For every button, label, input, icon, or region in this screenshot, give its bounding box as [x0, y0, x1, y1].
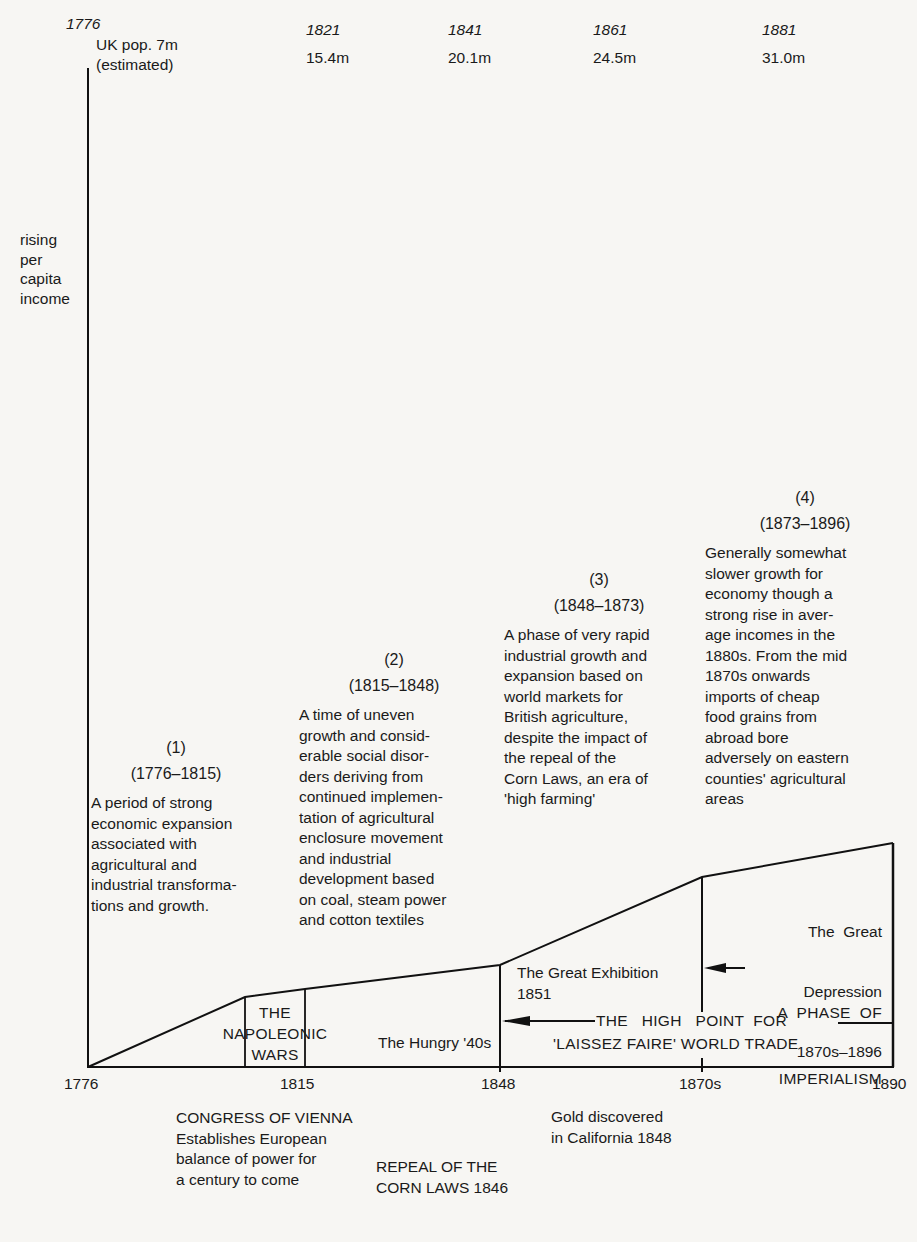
- phase-3: (3) (1848–1873) A phase of very rapidind…: [504, 569, 694, 810]
- top-year-1861: 1861: [593, 20, 627, 41]
- phase-1: (1) (1776–1815) A period of strongeconom…: [91, 737, 261, 916]
- pop-1881: 31.0m: [762, 48, 805, 69]
- top-year-1841: 1841: [448, 20, 482, 41]
- gold-discovered-label: Gold discovered in California 1848: [551, 1107, 672, 1148]
- pop-1861: 24.5m: [593, 48, 636, 69]
- phase-4: (4) (1873–1896) Generally somewhatslower…: [705, 487, 905, 810]
- pop-1821: 15.4m: [306, 48, 349, 69]
- pop-1776-note: (estimated): [96, 55, 174, 76]
- pop-1776: UK pop. 7m: [96, 35, 178, 56]
- x-tick-1870s: 1870s: [679, 1075, 721, 1093]
- x-tick-1890: 1890: [872, 1075, 906, 1093]
- x-tick-1848: 1848: [481, 1075, 515, 1093]
- congress-of-vienna-label: CONGRESS OF VIENNA Establishes European …: [176, 1108, 353, 1190]
- laissez-faire-line1: THE HIGH POINT FOR: [596, 1011, 787, 1032]
- napoleonic-wars-label: THE NAPOLEONIC WARS: [205, 1002, 345, 1065]
- x-tick-1776: 1776: [64, 1075, 98, 1093]
- phase-2: (2) (1815–1848) A time of unevengrowth a…: [299, 649, 489, 931]
- x-tick-1815: 1815: [280, 1075, 314, 1093]
- arrow-left-icon: [704, 963, 726, 973]
- top-year-1776: 1776: [66, 14, 100, 35]
- great-exhibition-label: The Great Exhibition 1851: [517, 962, 658, 1004]
- arrow-left-icon: [502, 1016, 530, 1026]
- repeal-corn-laws-label: REPEAL OF THE CORN LAWS 1846: [376, 1157, 508, 1198]
- y-axis-label: rising per capita income: [20, 230, 70, 308]
- top-year-1881: 1881: [762, 20, 796, 41]
- laissez-faire-line2: 'LAISSEZ FAIRE' WORLD TRADE: [553, 1034, 798, 1055]
- top-year-1821: 1821: [306, 20, 340, 41]
- hungry-40s-label: The Hungry '40s: [378, 1033, 491, 1054]
- pop-1841: 20.1m: [448, 48, 491, 69]
